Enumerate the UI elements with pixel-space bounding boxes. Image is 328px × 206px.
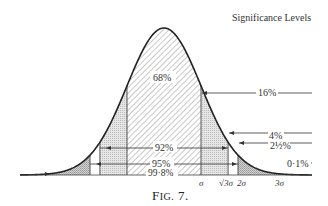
caption-smallcaps: IG. <box>160 191 175 202</box>
normal-distribution-diagram: 68% 16% 4% 2½% 0·1% 92% 95% 99·8% σ √3σ … <box>0 0 328 206</box>
label-2-5: 2½% <box>270 140 291 151</box>
label-99-8: 99·8% <box>148 168 173 178</box>
tick-sigma: σ <box>199 178 204 188</box>
diagram-title: Significance Levels <box>232 12 311 23</box>
tick-root3-sigma: √3σ <box>219 178 233 188</box>
label-0-1: 0·1% <box>287 158 309 169</box>
caption-prefix: F <box>152 188 160 203</box>
figure-caption: FIG. 7. <box>152 188 189 204</box>
tick-3-sigma: 3σ <box>274 178 285 188</box>
caption-number: 7. <box>174 188 189 203</box>
label-68: 68% <box>153 72 171 83</box>
tick-2-sigma: 2σ <box>237 178 247 188</box>
label-16: 16% <box>258 87 276 98</box>
label-92: 92% <box>155 142 173 153</box>
